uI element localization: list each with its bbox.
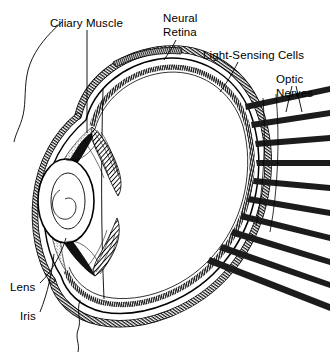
facial-profile-contour (14, 22, 62, 142)
optic-nerve-band-4 (256, 160, 330, 166)
label-light-sensing-cells: Light-Sensing Cells (203, 49, 304, 61)
label-iris: Iris (20, 310, 36, 322)
label-lens: Lens (10, 281, 35, 293)
eye-anatomy-diagram: Ciliary Muscle Neural Retina Light-Sensi… (0, 0, 330, 353)
label-neural-retina-line1: Neural (163, 12, 197, 24)
label-optic-nerves-line2: Nerves (276, 87, 313, 99)
label-ciliary-muscle: Ciliary Muscle (50, 17, 123, 29)
label-neural-retina-line2: Retina (163, 26, 197, 38)
eye-diagram-canvas: Ciliary Muscle Neural Retina Light-Sensi… (0, 0, 330, 353)
label-optic-nerves-line1: Optic (276, 73, 303, 85)
crystalline-lens (38, 159, 94, 243)
